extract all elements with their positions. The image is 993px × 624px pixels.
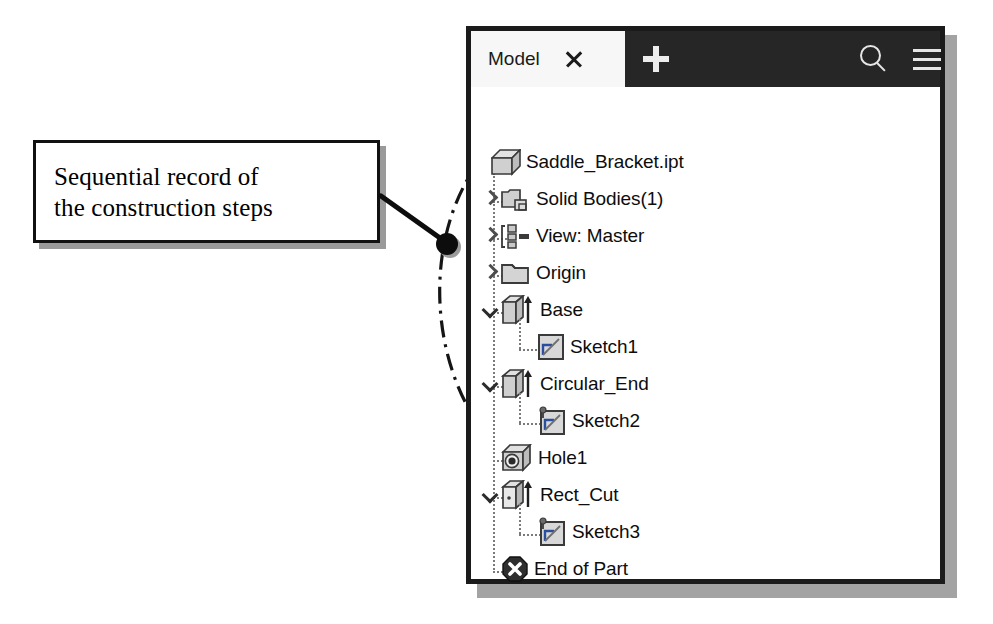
extrude-icon — [501, 369, 535, 399]
tree-item-label: Rect_Cut — [540, 484, 618, 506]
search-icon[interactable] — [860, 45, 890, 75]
tree-item-hole1[interactable]: Hole1 — [471, 443, 587, 473]
chevron-right-icon[interactable] — [481, 264, 499, 282]
tree-item-sketch3[interactable]: Sketch3 — [471, 517, 640, 547]
browser-toolbar — [625, 31, 940, 87]
tree-item-solid-bodies-1[interactable]: Solid Bodies(1) — [471, 184, 663, 214]
hole-icon — [501, 444, 533, 472]
end-of-part-icon — [501, 555, 529, 583]
sketch-icon — [537, 333, 565, 361]
tree-item-label: Saddle_Bracket.ipt — [526, 151, 684, 173]
tree-item-label: Origin — [536, 262, 586, 284]
tree-item-label: Solid Bodies(1) — [536, 188, 663, 210]
sketch-pin-icon — [537, 406, 567, 436]
screenshot-stage: Sequential record of the construction st… — [0, 0, 993, 624]
tree-item-end-of-part[interactable]: End of Part — [471, 554, 628, 584]
tab-model-label: Model — [488, 48, 540, 70]
tree-item-rect-cut[interactable]: Rect_Cut — [471, 480, 618, 510]
tree-item-circular-end[interactable]: Circular_End — [471, 369, 649, 399]
tree-item-label: Base — [540, 299, 583, 321]
sketch-pin-icon — [537, 517, 567, 547]
chevron-right-icon[interactable] — [481, 190, 499, 208]
tree-item-label: Circular_End — [540, 373, 649, 395]
plus-icon[interactable] — [643, 46, 669, 72]
tree-item-label: Sketch3 — [572, 521, 640, 543]
tree-item-label: Sketch2 — [572, 410, 640, 432]
extrude-cut-icon — [501, 480, 535, 510]
solid-bodies-icon — [501, 186, 531, 213]
annotation-callout-text: Sequential record of the construction st… — [36, 161, 273, 223]
chevron-down-icon[interactable] — [481, 486, 499, 504]
folder-icon — [501, 260, 531, 286]
extrude-icon — [501, 295, 535, 325]
tree-item-label: End of Part — [534, 558, 628, 580]
tree-item-sketch2[interactable]: Sketch2 — [471, 406, 640, 436]
tree-item-origin[interactable]: Origin — [471, 258, 586, 288]
leader-dot — [436, 233, 458, 255]
model-browser-panel: Model Saddle_Bracket.ip — [466, 26, 945, 584]
model-tree: Saddle_Bracket.ipt Solid Bodies(1) View:… — [471, 87, 940, 579]
tree-item-saddle-bracket-ipt[interactable]: Saddle_Bracket.ipt — [471, 147, 684, 177]
hamburger-menu-icon[interactable] — [913, 49, 941, 71]
browser-header: Model — [471, 31, 940, 87]
chevron-right-icon[interactable] — [481, 227, 499, 245]
part-cube-icon — [491, 149, 521, 176]
view-master-icon — [501, 223, 531, 250]
leader-line — [381, 196, 447, 243]
tree-item-label: Sketch1 — [570, 336, 638, 358]
tab-model[interactable]: Model — [471, 31, 625, 87]
close-icon[interactable] — [562, 47, 586, 71]
chevron-down-icon[interactable] — [481, 375, 499, 393]
chevron-down-icon[interactable] — [481, 301, 499, 319]
tree-item-label: Hole1 — [538, 447, 587, 469]
tree-item-view-master[interactable]: View: Master — [471, 221, 644, 251]
tree-item-base[interactable]: Base — [471, 295, 583, 325]
tree-item-label: View: Master — [536, 225, 644, 247]
tree-item-sketch1[interactable]: Sketch1 — [471, 332, 638, 362]
leader-dot-shadow — [439, 236, 461, 258]
annotation-callout-box: Sequential record of the construction st… — [33, 140, 380, 243]
